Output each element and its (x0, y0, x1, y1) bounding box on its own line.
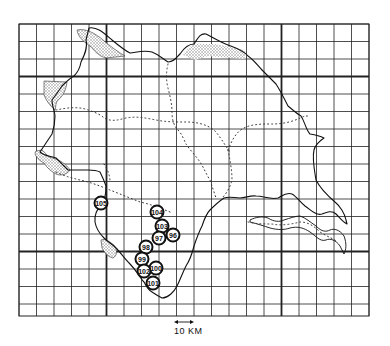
site-label: 98 (142, 244, 150, 251)
site-marker-97: 97 (153, 232, 166, 245)
stippled-areas (35, 30, 245, 258)
site-label: 102 (138, 268, 150, 275)
stipple-area-northeast (183, 43, 245, 60)
site-label: 97 (155, 235, 163, 242)
site-marker-105: 105 (95, 197, 108, 210)
site-marker-99: 99 (136, 253, 149, 266)
internal-divisions (56, 64, 338, 242)
stipple-area-west-middle (35, 150, 70, 175)
scale-arrow-right-icon (190, 320, 194, 324)
map-canvas: 10510410396979899100102101 10 KM (0, 0, 390, 346)
site-marker-96: 96 (167, 229, 180, 242)
site-label: 104 (151, 209, 163, 216)
site-label: 96 (169, 232, 177, 239)
site-label: 105 (95, 200, 107, 207)
site-label: 99 (138, 256, 146, 263)
scale-bar-label: 10 KM (174, 326, 203, 336)
site-marker-104: 104 (151, 206, 164, 219)
scale-bar: 10 KM (174, 320, 203, 336)
map-figure: 10510410396979899100102101 10 KM (0, 0, 390, 346)
site-marker-100: 100 (150, 262, 163, 275)
site-marker-102: 102 (138, 265, 151, 278)
site-marker-101: 101 (147, 277, 160, 290)
site-label: 103 (156, 223, 168, 230)
scale-arrow-left-icon (174, 320, 178, 324)
site-label: 100 (150, 265, 162, 272)
boundary-line (40, 28, 347, 298)
site-marker-103: 103 (156, 220, 169, 233)
site-label: 101 (147, 280, 159, 287)
